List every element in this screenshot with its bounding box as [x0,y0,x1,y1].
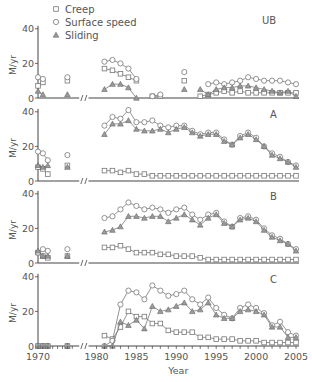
legend-sliding: Sliding [65,30,99,41]
y-axis-label: M/yr [8,138,18,158]
series-creep [36,66,299,98]
x-tick-label: 1995 [204,351,228,362]
x-tick-label: 1970 [26,351,50,362]
y-tick-label: 40 [22,188,34,199]
series-sliding [35,81,299,100]
panel-ub: 02040M/yrUB [8,15,299,104]
x-tick-label: 2000 [244,351,268,362]
panel-label: B [270,191,277,202]
y-tick-label: 40 [22,271,34,282]
y-tick-label: 0 [28,93,34,104]
panel-label: A [270,109,277,120]
y-axis-label: M/yr [8,55,18,75]
series-surface-speed [35,283,298,349]
panel-b: 02040M/yrB [8,188,299,268]
series-creep [36,309,299,348]
panel-a: 02040M/yrA [8,106,299,186]
panel-label: UB [262,15,276,26]
series-creep [36,243,299,261]
x-tick-label: 1990 [164,351,188,362]
y-tick-label: 20 [22,223,34,234]
series-surface-speed [35,200,298,255]
panel-label: C [270,274,277,285]
x-axis-label: Year [167,365,188,376]
glacier-velocity-chart: 02040M/yrUB02040M/yrA02040M/yrB02040M/yr… [0,0,312,382]
legend-surface-speed: Surface speed [65,17,136,28]
legend-creep: Creep [65,4,95,15]
x-tick-label: 1985 [124,351,148,362]
y-axis-label: M/yr [8,220,18,240]
y-tick-label: 20 [22,141,34,152]
y-tick-label: 0 [28,341,34,352]
y-tick-label: 0 [28,258,34,269]
x-tick-label: 2005 [284,351,308,362]
series-sliding [35,300,299,348]
series-creep [36,163,299,178]
y-axis-label: M/yr [8,303,18,323]
y-tick-label: 20 [22,306,34,317]
y-tick-label: 40 [22,106,34,117]
y-tick-label: 0 [28,176,34,187]
series-surface-speed [35,107,298,168]
y-tick-label: 40 [22,23,34,34]
y-tick-label: 20 [22,58,34,69]
x-tick-label: 1980 [84,351,108,362]
legend: CreepSurface speedSliding [53,4,136,41]
panel-c: 02040M/yrC [8,271,299,351]
series-sliding [35,212,299,259]
